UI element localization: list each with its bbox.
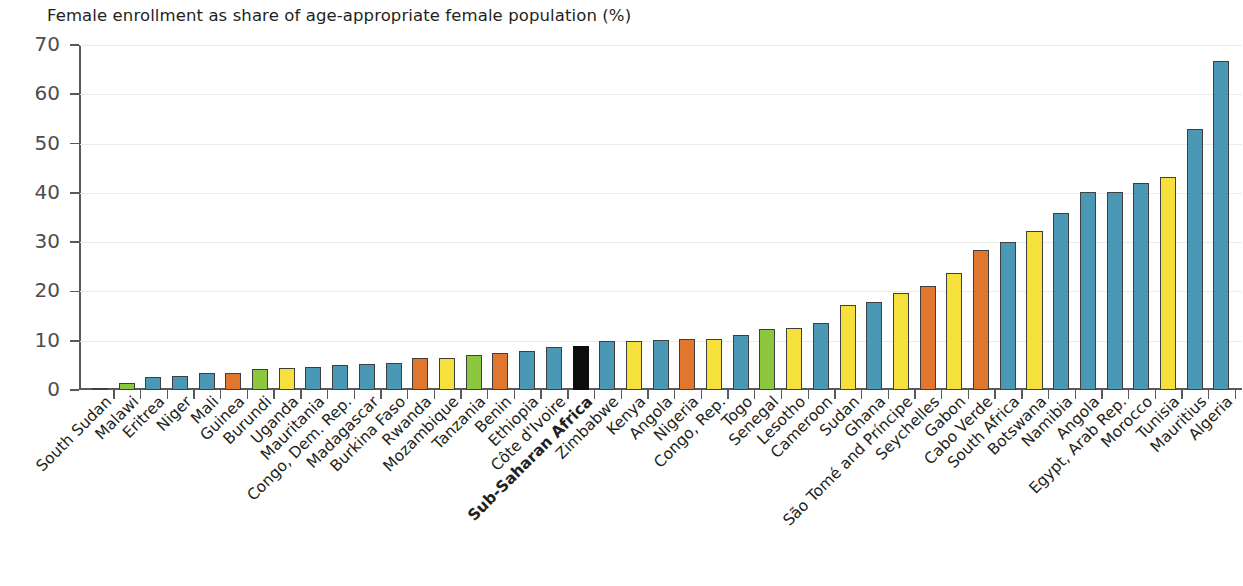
bar[interactable] — [1133, 183, 1149, 390]
y-axis-tick-label: 40 — [0, 182, 60, 202]
bar[interactable] — [92, 388, 108, 391]
bar[interactable] — [439, 358, 455, 390]
bar[interactable] — [733, 335, 749, 390]
bar[interactable] — [252, 369, 268, 390]
bar[interactable] — [225, 373, 241, 390]
bar[interactable] — [893, 293, 909, 390]
bar[interactable] — [1080, 192, 1096, 390]
bar[interactable] — [172, 376, 188, 390]
y-axis-tick-label: 30 — [0, 231, 60, 251]
bar[interactable] — [1053, 213, 1069, 390]
bars-group — [79, 45, 1242, 390]
bar[interactable] — [199, 373, 215, 390]
bar[interactable] — [759, 329, 775, 390]
y-axis-tick — [70, 192, 79, 194]
bar[interactable] — [546, 347, 562, 390]
bar[interactable] — [840, 305, 856, 390]
bar[interactable] — [573, 346, 589, 390]
bar[interactable] — [1107, 192, 1123, 390]
bar[interactable] — [466, 355, 482, 390]
bar[interactable] — [332, 365, 348, 390]
bar-chart: Female enrollment as share of age-approp… — [0, 0, 1243, 586]
x-axis-labels: South SudanMalawiEritreaNigerMaliGuineaB… — [79, 392, 1242, 582]
y-axis-tick-label: 0 — [0, 379, 60, 399]
bar[interactable] — [679, 339, 695, 390]
bar[interactable] — [599, 341, 615, 390]
bar[interactable] — [305, 367, 321, 390]
bar[interactable] — [1000, 242, 1016, 390]
bar[interactable] — [1026, 231, 1042, 390]
chart-title: Female enrollment as share of age-approp… — [47, 6, 631, 25]
bar[interactable] — [1160, 177, 1176, 390]
bar[interactable] — [1187, 129, 1203, 390]
bar[interactable] — [946, 273, 962, 390]
bar[interactable] — [145, 377, 161, 390]
bar[interactable] — [492, 353, 508, 390]
bar[interactable] — [653, 340, 669, 390]
bar[interactable] — [386, 363, 402, 390]
y-axis-tick-label: 10 — [0, 330, 60, 350]
y-axis-tick — [70, 241, 79, 243]
bar[interactable] — [626, 341, 642, 390]
bar[interactable] — [412, 358, 428, 390]
bar[interactable] — [786, 328, 802, 390]
bar[interactable] — [119, 383, 135, 390]
y-axis-tick-label: 20 — [0, 280, 60, 300]
bar[interactable] — [359, 364, 375, 390]
bar[interactable] — [973, 250, 989, 390]
y-axis-tick — [70, 143, 79, 145]
bar[interactable] — [519, 351, 535, 390]
y-axis-tick — [70, 93, 79, 95]
y-axis-tick — [70, 291, 79, 293]
bar[interactable] — [813, 323, 829, 390]
y-axis-tick — [70, 340, 79, 342]
y-axis-tick — [70, 389, 79, 391]
bar[interactable] — [1213, 61, 1229, 390]
bar[interactable] — [866, 302, 882, 390]
bar[interactable] — [920, 286, 936, 390]
plot-area — [79, 45, 1242, 390]
y-axis-tick-label: 50 — [0, 133, 60, 153]
bar[interactable] — [279, 368, 295, 390]
y-axis-tick-label: 70 — [0, 34, 60, 54]
y-axis-tick-label: 60 — [0, 83, 60, 103]
y-axis-tick — [70, 44, 79, 46]
bar[interactable] — [706, 339, 722, 390]
